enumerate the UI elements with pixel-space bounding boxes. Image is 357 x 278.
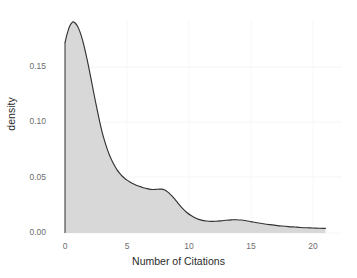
y-tick-label-0.05: 0.05 xyxy=(14,173,46,182)
x-tick-label-0: 0 xyxy=(50,242,80,251)
x-axis-title: Number of Citations xyxy=(0,256,357,267)
density-plot-figure: 0.15 0.10 0.05 0.00 0 5 10 15 20 Number … xyxy=(0,0,357,278)
x-tick-label-20: 20 xyxy=(298,242,328,251)
y-axis-title: density xyxy=(6,84,17,144)
plot-canvas xyxy=(0,0,357,278)
figure-background xyxy=(0,0,357,278)
x-tick-label-10: 10 xyxy=(174,242,204,251)
y-tick-label-0.00: 0.00 xyxy=(14,228,46,237)
y-tick-label-0.10: 0.10 xyxy=(14,117,46,126)
y-tick-label-0.15: 0.15 xyxy=(14,62,46,71)
x-tick-label-5: 5 xyxy=(112,242,142,251)
x-tick-label-15: 15 xyxy=(236,242,266,251)
